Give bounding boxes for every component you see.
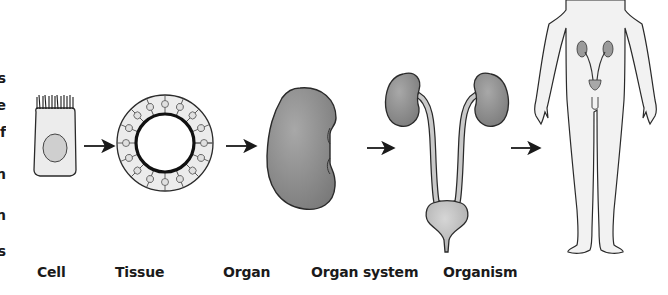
microvilli-icon	[37, 95, 73, 109]
human-body-illustration	[535, 0, 657, 253]
tissue-illustration	[117, 95, 213, 191]
cell-illustration	[34, 95, 76, 176]
levels-of-organization-diagram: s e f n n s	[0, 0, 668, 295]
stage-label-organ: Organ	[223, 264, 270, 280]
nucleus-icon	[43, 134, 67, 162]
stage-label-organism: Organism	[443, 264, 517, 280]
stage-label-cell: Cell	[37, 264, 66, 280]
urinary-system-illustration	[386, 73, 509, 252]
kidney-illustration	[267, 88, 336, 210]
stage-label-tissue: Tissue	[115, 264, 164, 280]
stage-label-organ-system: Organ system	[311, 264, 418, 280]
